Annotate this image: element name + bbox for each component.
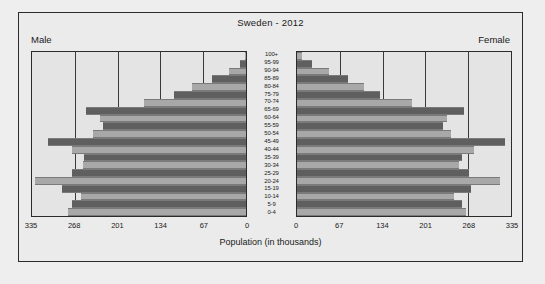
pyramid-row [32, 146, 246, 154]
pyramid-row [32, 154, 246, 162]
pyramid-row [32, 60, 246, 68]
age-group-label: 10-14 [247, 193, 296, 201]
bar-female-10-14 [297, 193, 454, 201]
x-tick-label: 201 [419, 221, 432, 230]
bar-male-55-59 [103, 122, 246, 130]
pyramid-row [297, 138, 511, 146]
population-pyramid-figure: Sweden - 2012 Male Female 100+95-9990-94… [18, 12, 523, 262]
pyramid-row [32, 185, 246, 193]
bar-female-90-94 [297, 68, 329, 76]
bar-male-100+ [245, 52, 246, 60]
bar-female-0-4 [297, 208, 466, 216]
age-group-label: 30-34 [247, 162, 296, 170]
pyramid-row [32, 107, 246, 115]
female-side-label: Female [478, 34, 510, 45]
bar-female-15-19 [297, 185, 471, 193]
age-group-label: 65-69 [247, 106, 296, 114]
chart-title: Sweden - 2012 [19, 17, 522, 28]
x-tick-label: 201 [111, 221, 124, 230]
age-group-label: 70-74 [247, 98, 296, 106]
pyramid-row [32, 208, 246, 216]
pyramid-row [297, 193, 511, 201]
bar-female-85-89 [297, 75, 348, 83]
male-side-label: Male [31, 34, 52, 45]
age-group-label: 20-24 [247, 178, 296, 186]
bar-male-40-44 [72, 146, 246, 154]
bar-male-0-4 [68, 208, 246, 216]
bar-male-35-39 [84, 154, 246, 162]
pyramid-row [32, 115, 246, 123]
male-plot-panel [31, 51, 247, 217]
bar-female-70-74 [297, 99, 412, 107]
pyramid-row [32, 75, 246, 83]
bar-male-70-74 [144, 99, 246, 107]
pyramid-row [297, 60, 511, 68]
bar-male-15-19 [62, 185, 246, 193]
age-group-label: 75-79 [247, 91, 296, 99]
pyramid-row [297, 185, 511, 193]
bar-female-95-99 [297, 60, 312, 68]
bar-female-45-49 [297, 138, 505, 146]
x-axis-label: Population (in thousands) [19, 237, 522, 247]
bar-female-75-79 [297, 91, 380, 99]
pyramid-row [297, 146, 511, 154]
pyramid-row [297, 115, 511, 123]
bar-female-30-34 [297, 161, 459, 169]
bar-male-45-49 [48, 138, 246, 146]
pyramid-row [297, 99, 511, 107]
pyramid-row [32, 177, 246, 185]
x-tick-label: 134 [376, 221, 389, 230]
age-group-label: 95-99 [247, 59, 296, 67]
bar-male-90-94 [229, 68, 246, 76]
age-group-label: 45-49 [247, 138, 296, 146]
pyramid-row [297, 52, 511, 60]
x-tick-label: 67 [200, 221, 208, 230]
female-x-axis-ticks: 067134201268335 [296, 221, 512, 233]
age-group-label: 60-64 [247, 114, 296, 122]
pyramid-row [32, 161, 246, 169]
bar-female-35-39 [297, 154, 462, 162]
pyramid-row [32, 122, 246, 130]
x-tick-label: 335 [506, 221, 519, 230]
pyramid-row [297, 122, 511, 130]
bar-male-5-9 [72, 200, 246, 208]
x-tick-label: 0 [245, 221, 249, 230]
pyramid-row [32, 138, 246, 146]
pyramid-row [32, 200, 246, 208]
bar-male-75-79 [174, 91, 246, 99]
bar-female-80-84 [297, 83, 364, 91]
pyramid-row [297, 208, 511, 216]
pyramid-row [297, 177, 511, 185]
bar-male-80-84 [192, 83, 246, 91]
bar-female-65-69 [297, 107, 464, 115]
bar-male-50-54 [93, 130, 246, 138]
bar-male-20-24 [35, 177, 246, 185]
bar-male-65-69 [86, 107, 246, 115]
bar-male-30-34 [83, 161, 246, 169]
bar-female-25-29 [297, 169, 469, 177]
age-group-label: 55-59 [247, 122, 296, 130]
bar-female-55-59 [297, 122, 443, 130]
pyramid-row [32, 130, 246, 138]
bar-female-20-24 [297, 177, 500, 185]
pyramid-row [297, 68, 511, 76]
x-tick-label: 134 [154, 221, 167, 230]
pyramid-row [32, 193, 246, 201]
pyramid-row [297, 169, 511, 177]
pyramid-row [297, 91, 511, 99]
x-tick-label: 268 [68, 221, 81, 230]
pyramid-row [297, 130, 511, 138]
x-tick-label: 0 [294, 221, 298, 230]
age-group-label: 50-54 [247, 130, 296, 138]
bar-male-60-64 [100, 115, 246, 123]
age-group-label: 80-84 [247, 83, 296, 91]
x-tick-label: 335 [25, 221, 38, 230]
age-group-label: 5-9 [247, 201, 296, 209]
bar-female-5-9 [297, 200, 462, 208]
pyramid-row [297, 107, 511, 115]
age-group-label: 40-44 [247, 146, 296, 154]
bar-female-60-64 [297, 115, 447, 123]
age-group-axis: 100+95-9990-9485-8980-8475-7970-7465-696… [247, 51, 296, 217]
bar-male-85-89 [212, 75, 246, 83]
pyramid-row [32, 91, 246, 99]
